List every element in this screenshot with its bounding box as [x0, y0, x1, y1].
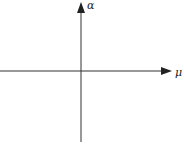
y-arrow-icon — [77, 2, 85, 13]
vertical-axis — [77, 2, 85, 142]
y-axis-label: α — [87, 0, 95, 12]
x-axis-label: μ — [175, 66, 182, 79]
axes-diagram: μ α — [0, 0, 184, 146]
x-arrow-icon — [161, 67, 172, 75]
horizontal-axis — [0, 67, 172, 75]
